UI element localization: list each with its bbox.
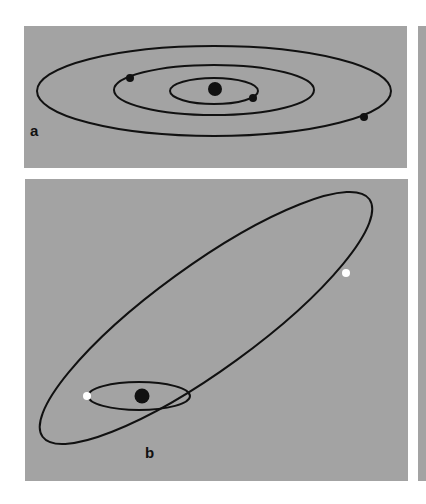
central-star (135, 389, 150, 404)
planet-outer (360, 113, 368, 121)
planet-inner (249, 94, 257, 102)
panel-b-label: b (145, 445, 154, 460)
panel-a-diagram (24, 26, 407, 168)
eccentric-orbit (25, 179, 400, 479)
panel-c-partial (418, 26, 426, 481)
planet-middle (126, 74, 134, 82)
panel-b-diagram (25, 179, 408, 481)
planet-small-orbit (83, 392, 91, 400)
central-star (208, 82, 222, 96)
panel-b: b (25, 179, 408, 481)
planet-eccentric-orbit (342, 269, 350, 277)
panel-a: a (24, 26, 407, 168)
panel-a-label: a (30, 123, 38, 138)
